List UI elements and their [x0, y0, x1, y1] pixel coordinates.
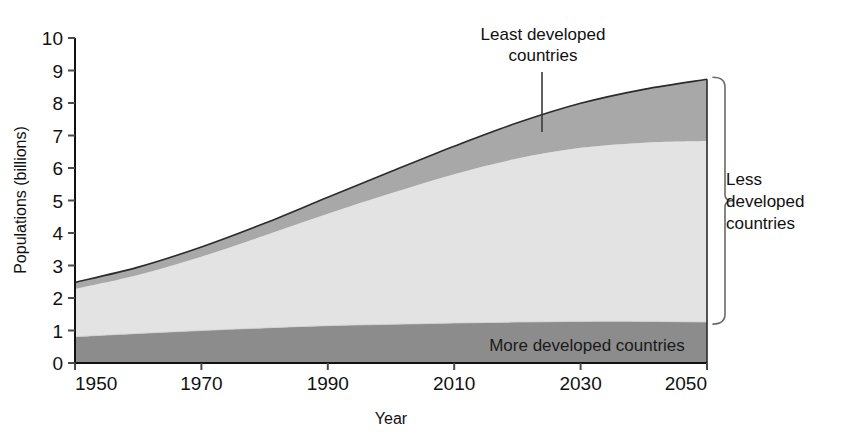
x-tick-label-2010: 2010 [433, 373, 475, 394]
y-tick-label-6: 6 [52, 158, 63, 179]
population-projection-chart: 012345678910 195019701990201020302050 Po… [0, 0, 842, 436]
least-developed-label-line2: countries [509, 46, 578, 65]
x-tick-label-2030: 2030 [559, 373, 601, 394]
x-tick-label-1950: 1950 [75, 373, 117, 394]
y-tick-label-7: 7 [52, 126, 63, 147]
less-developed-label-line3: countries [726, 214, 795, 233]
x-axis-title: Year [375, 410, 408, 427]
y-tick-label-0: 0 [52, 353, 63, 374]
less-developed-label-line1: Less [726, 170, 762, 189]
x-tick-label-2050: 2050 [665, 373, 707, 394]
x-tick-label-1970: 1970 [180, 373, 222, 394]
less-developed-label-line2: developed [726, 192, 804, 211]
y-tick-label-8: 8 [52, 93, 63, 114]
y-tick-label-9: 9 [52, 61, 63, 82]
chart-canvas: 012345678910 195019701990201020302050 Po… [0, 0, 842, 436]
y-tick-label-4: 4 [52, 223, 63, 244]
y-tick-label-5: 5 [52, 191, 63, 212]
more-developed-label: More developed countries [489, 336, 685, 355]
y-tick-label-10: 10 [42, 28, 63, 49]
y-tick-label-3: 3 [52, 256, 63, 277]
x-tick-label-1990: 1990 [307, 373, 349, 394]
y-axis-title: Populations (billions) [12, 126, 29, 274]
least-developed-label-line1: Least developed [481, 25, 606, 44]
y-tick-label-2: 2 [52, 288, 63, 309]
y-tick-label-1: 1 [52, 321, 63, 342]
